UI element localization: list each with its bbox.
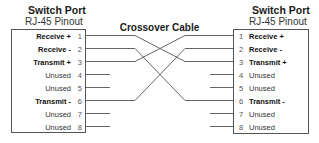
crossover-wiring [0, 0, 319, 143]
